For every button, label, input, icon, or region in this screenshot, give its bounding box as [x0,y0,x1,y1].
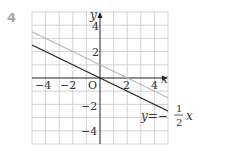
origin-label: O [88,79,97,92]
graph: x y O −4 −2 2 4 4 2 −2 −4 y=− 1 2 x [0,0,236,151]
tick-x-4: 4 [151,79,158,92]
axes [32,14,166,144]
y-axis-arrow-icon [98,12,103,18]
tick-y-4: 4 [92,20,99,33]
equation-x: x [186,109,193,123]
equation-frac-den: 2 [176,117,182,128]
x-axis-label: x [161,72,168,86]
tick-y-neg2: −2 [81,100,97,113]
equation-frac-num: 1 [176,103,182,114]
tick-x-neg4: −4 [35,79,51,92]
tick-y-neg4: −4 [81,125,97,138]
tick-x-2: 2 [123,79,130,92]
tick-x-neg2: −2 [60,79,76,92]
tick-y-2: 2 [92,46,99,59]
equation-label: y=− [140,109,168,123]
